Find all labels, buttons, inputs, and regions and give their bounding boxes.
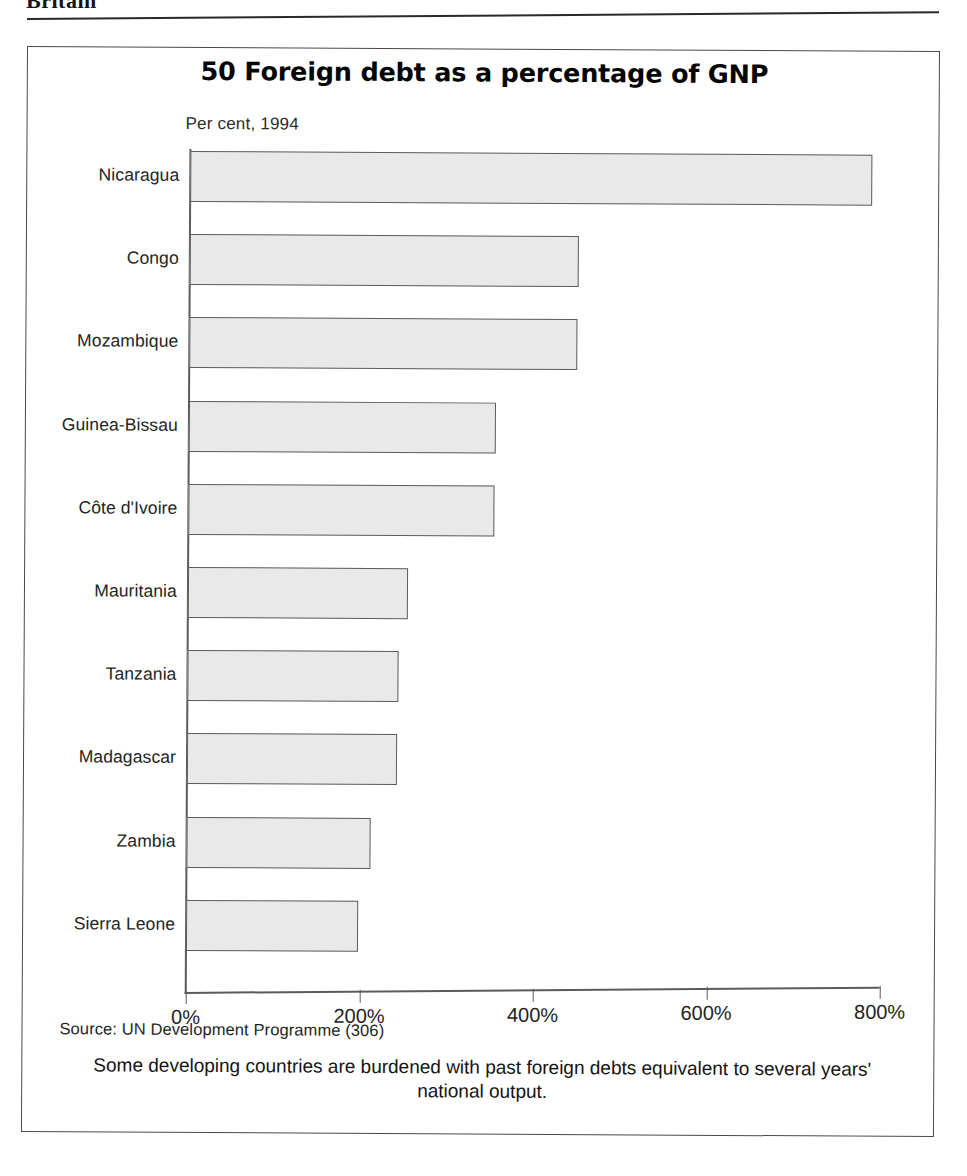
bar-category-label: Nicaragua: [27, 164, 179, 186]
x-axis-ticks: 0%200%400%600%800%: [27, 139, 940, 144]
plot-area: NicaraguaCongoMozambiqueGuinea-BissauCôt…: [23, 139, 941, 1004]
x-tick-label: 400%: [507, 1003, 558, 1026]
bar: [188, 567, 409, 619]
page-header-remnant: Britain: [0, 0, 967, 30]
x-tick-mark: [359, 990, 360, 1003]
bar-row: Sierra Leone: [23, 896, 936, 959]
bar-category-label: Zambia: [24, 830, 176, 852]
bar-row: Mauritania: [25, 563, 938, 626]
bar: [186, 816, 370, 868]
x-tick-mark: [186, 991, 187, 1004]
chart-subtitle: Per cent, 1994: [186, 114, 299, 135]
bar-category-label: Sierra Leone: [23, 913, 175, 935]
bar: [189, 401, 496, 454]
bar: [187, 650, 398, 702]
bar: [186, 900, 358, 952]
bar-row: Guinea-Bissau: [26, 397, 939, 460]
bar-category-label: Côte d'Ivoire: [25, 497, 177, 519]
bar: [188, 484, 494, 537]
bar-row: Zambia: [23, 813, 936, 876]
x-tick-mark: [706, 987, 707, 1000]
bar-row: Madagascar: [24, 729, 937, 792]
page-header-title: Britain: [26, 0, 97, 14]
x-tick-mark: [880, 986, 881, 999]
bars-container: NicaraguaCongoMozambiqueGuinea-BissauCôt…: [27, 139, 940, 144]
bar: [189, 317, 577, 370]
chart-title: 50 Foreign debt as a percentage of GNP: [28, 55, 941, 90]
bar-category-label: Mauritania: [25, 580, 177, 602]
x-tick-label: 800%: [854, 1001, 905, 1024]
source-note: Source: UN Development Programme (306): [59, 1019, 384, 1040]
bar-row: Côte d'Ivoire: [25, 480, 938, 543]
bar-category-label: Madagascar: [24, 746, 176, 768]
bar-row: Tanzania: [24, 646, 937, 709]
bar-category-label: Guinea-Bissau: [26, 414, 178, 436]
bar-row: Congo: [27, 230, 940, 293]
page-header-divider: [27, 11, 939, 20]
bar: [187, 733, 397, 785]
bar-row: Mozambique: [26, 313, 939, 376]
bar-category-label: Mozambique: [26, 330, 178, 352]
figure-inner: 50 Foreign debt as a percentage of GNP P…: [22, 47, 941, 1138]
x-tick-mark: [533, 988, 534, 1001]
bar: [190, 234, 579, 287]
bar-row: Nicaragua: [27, 147, 940, 210]
figure-caption: Some developing countries are burdened w…: [62, 1053, 902, 1106]
bar-category-label: Congo: [27, 247, 179, 269]
bar-category-label: Tanzania: [24, 663, 176, 685]
figure-frame: 50 Foreign debt as a percentage of GNP P…: [21, 46, 940, 1137]
x-tick-label: 600%: [680, 1002, 731, 1025]
bar: [190, 151, 872, 206]
